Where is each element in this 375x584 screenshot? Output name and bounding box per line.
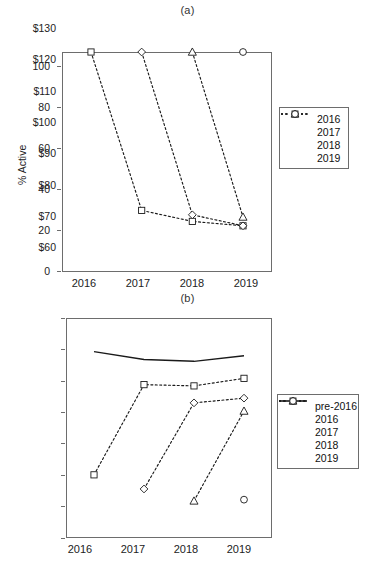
data-point-circle <box>292 111 299 118</box>
panel-a-legend-label: 2019 <box>314 152 340 164</box>
panel-a-legend-item-2019[interactable]: 2019 <box>284 151 343 164</box>
data-point-diamond <box>240 394 248 402</box>
legend-marker-triangle-icon <box>282 439 312 451</box>
panel-b-ytick-120: $120 <box>12 53 56 65</box>
legend-marker-diamond-icon <box>284 126 314 138</box>
data-point-circle <box>241 496 248 503</box>
panel-b-legend-label: 2019 <box>312 452 338 464</box>
data-point-square <box>91 472 97 478</box>
legend-marker-square-icon <box>282 413 312 425</box>
data-point-triangle <box>190 497 198 504</box>
series-line-2017 <box>144 398 244 489</box>
panel-a-legend-item-2018[interactable]: 2018 <box>284 138 343 151</box>
panel-b-legend-label: 2017 <box>312 426 338 438</box>
panel-a-legend-label: 2016 <box>314 113 340 125</box>
panel-b-ytick-80: $80 <box>12 179 56 191</box>
legend-marker-circle-icon <box>284 152 314 164</box>
legend-marker-circle-icon <box>282 452 312 464</box>
data-point-circle <box>290 398 297 405</box>
panel-b-legend-item-2019[interactable]: 2019 <box>282 451 353 464</box>
panel-b-ytick-60: $60 <box>12 241 56 253</box>
data-point-diamond <box>138 48 146 56</box>
panel-a-legend-label: 2017 <box>314 126 340 138</box>
data-point-diamond <box>140 485 148 493</box>
panel-b-legend-item-2018[interactable]: 2018 <box>282 438 353 451</box>
data-point-circle <box>240 49 247 56</box>
panel-b-legend: pre-20162016201720182019 <box>277 394 359 469</box>
data-point-square <box>139 207 145 213</box>
data-point-square <box>141 382 147 388</box>
panel-b-xtick-2016: 2016 <box>53 543 107 555</box>
panel-b-legend-label: pre-2016 <box>312 400 357 412</box>
panel-a-xtick-2019: 2019 <box>219 277 273 289</box>
panel-a-xtick-2016: 2016 <box>57 277 111 289</box>
figure-root: (a) % Active 100 80 60 40 20 0 2016 2017… <box>0 0 375 584</box>
panel-b-ytick-90: $90 <box>12 147 56 159</box>
chart-panel-a: (a) % Active 100 80 60 40 20 0 2016 2017… <box>0 0 375 290</box>
panel-a-xtick-2018: 2018 <box>165 277 219 289</box>
panel-a-legend: 2016201720182019 <box>279 107 349 169</box>
panel-b-ytick-110: $110 <box>12 85 56 97</box>
series-line-2016 <box>91 52 243 226</box>
legend-symbol-circle <box>280 108 310 120</box>
data-point-triangle <box>239 213 247 220</box>
legend-symbol-circle <box>278 395 308 407</box>
panel-b-ytick-70: $70 <box>12 210 56 222</box>
panel-b-ytick-130: $130 <box>12 22 56 34</box>
data-point-diamond <box>190 399 198 407</box>
panel-b-xtick-2018: 2018 <box>159 543 213 555</box>
series-line-2018 <box>192 52 243 217</box>
legend-marker-triangle-icon <box>284 139 314 151</box>
data-point-square <box>241 375 247 381</box>
chart-panel-b: (b) Avg profit / active cohort member $1… <box>0 290 375 584</box>
series-line-2018 <box>194 411 244 501</box>
panel-b-legend-item-2016[interactable]: 2016 <box>282 412 353 425</box>
data-point-triangle <box>240 407 248 414</box>
panel-a-legend-item-2017[interactable]: 2017 <box>284 125 343 138</box>
data-point-square <box>191 383 197 389</box>
data-point-diamond <box>188 211 196 219</box>
panel-b-legend-label: 2018 <box>312 439 338 451</box>
data-point-triangle <box>188 48 196 55</box>
panel-a-legend-label: 2018 <box>314 139 340 151</box>
panel-b-xtick-2017: 2017 <box>106 543 160 555</box>
series-line-pre-2016 <box>94 352 244 362</box>
panel-b-ytick-100: $100 <box>12 116 56 128</box>
panel-b-legend-label: 2016 <box>312 413 338 425</box>
panel-b-legend-item-2017[interactable]: 2017 <box>282 425 353 438</box>
data-point-square <box>88 49 94 55</box>
series-line-2017 <box>142 52 243 226</box>
panel-b-xtick-2019: 2019 <box>212 543 266 555</box>
series-line-2016 <box>94 378 244 474</box>
legend-marker-diamond-icon <box>282 426 312 438</box>
panel-a-xtick-2017: 2017 <box>111 277 165 289</box>
